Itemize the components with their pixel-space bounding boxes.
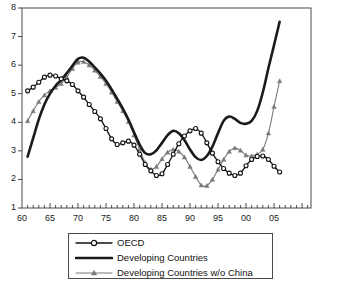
x-tick-label-80: 80: [125, 214, 143, 223]
series-developing-countries: [28, 22, 280, 160]
x-tick-label-65: 65: [41, 214, 59, 223]
legend-line-sample: [75, 236, 113, 250]
y-tick-label-1: 1: [2, 203, 16, 212]
x-tick-label-85: 85: [153, 214, 171, 223]
legend-item-developing-countries: Developing Countries: [69, 250, 272, 265]
y-tick-label-4: 4: [2, 117, 16, 126]
legend-label-developing-countries-wo-china: Developing Countries w/o China: [117, 267, 253, 278]
x-tick-label-00: 00: [237, 214, 255, 223]
x-tick-label-75: 75: [97, 214, 115, 223]
chart-container: 12345678 60657075808590950005 OECD Devel…: [0, 0, 341, 284]
legend-line-sample: [75, 251, 113, 265]
x-tick-label-05: 05: [265, 214, 283, 223]
legend-label-developing-countries: Developing Countries: [117, 252, 208, 263]
y-tick-label-3: 3: [2, 146, 16, 155]
legend-swatch-developing-countries-wo-china: [75, 266, 113, 280]
series-group: [25, 22, 281, 188]
y-tick-label-8: 8: [2, 3, 16, 12]
y-tick-label-2: 2: [2, 174, 16, 183]
legend-swatch-oecd: [75, 236, 113, 250]
x-tick-label-90: 90: [181, 214, 199, 223]
chart-legend: OECD Developing Countries Developing Cou…: [68, 233, 273, 279]
legend-line-sample: [75, 266, 113, 280]
legend-item-developing-countries-wo-china: Developing Countries w/o China: [69, 265, 272, 280]
y-tick-label-7: 7: [2, 32, 16, 41]
x-tick-label-95: 95: [209, 214, 227, 223]
x-tick-label-70: 70: [69, 214, 87, 223]
x-tick-label-60: 60: [13, 214, 31, 223]
y-tick-label-6: 6: [2, 60, 16, 69]
series-oecd: [26, 73, 282, 177]
y-tick-label-5: 5: [2, 89, 16, 98]
legend-item-oecd: OECD: [69, 235, 272, 250]
axes-group: [18, 8, 311, 208]
legend-label-oecd: OECD: [117, 237, 144, 248]
legend-swatch-developing-countries: [75, 251, 113, 265]
